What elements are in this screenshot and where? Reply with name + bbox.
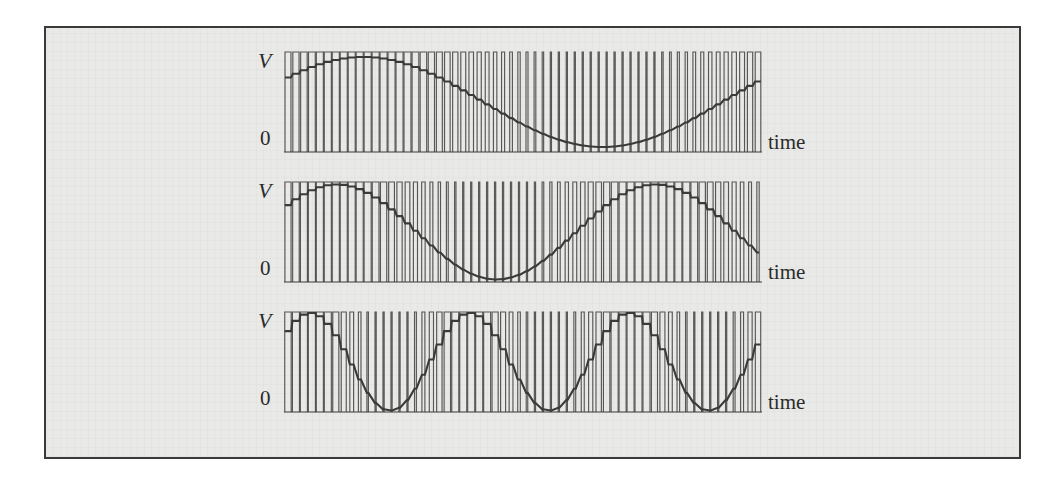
pwm-pulse (574, 52, 575, 152)
pwm-pulse (316, 312, 323, 412)
pwm-pulse (614, 52, 615, 152)
pwm-pulse (732, 182, 736, 282)
pwm-pulse (356, 52, 363, 152)
pwm-pulse (308, 182, 315, 282)
pwm-pulse (316, 182, 323, 282)
pwm-pulse (755, 312, 760, 412)
pwm-pulse (484, 312, 491, 412)
waveform-panel-3: V 0 time (46, 310, 1023, 430)
pwm-pulse (332, 182, 339, 282)
pwm-pulse (675, 182, 682, 282)
pwm-pulse (453, 52, 458, 152)
pwm-pulse (589, 312, 593, 412)
pwm-pulse (726, 312, 727, 412)
pwm-pulse (651, 312, 657, 412)
pwm-pulse (611, 182, 618, 282)
pwm-pulse (581, 182, 585, 282)
pwm-pulse (391, 312, 392, 412)
pwm-pulse (510, 182, 511, 282)
pwm-pulse (444, 312, 450, 412)
pwm-pulse (372, 52, 379, 152)
pwm-pulse (588, 182, 593, 282)
pwm-pulse (635, 182, 642, 282)
pwm-pulse (662, 52, 663, 152)
pwm-pulse (740, 182, 743, 282)
pwm-pulse (445, 52, 451, 152)
pwm-pulse (285, 52, 291, 152)
pwm-pulse (667, 182, 674, 282)
pwm-pulse (463, 182, 464, 282)
pwm-pulse (340, 182, 347, 282)
axis-label-v: V (258, 50, 271, 72)
pwm-pulse (348, 52, 355, 152)
pwm-pulse (389, 182, 395, 282)
pwm-pulse (405, 182, 410, 282)
pwm-pulse (383, 312, 384, 412)
pwm-pulse (604, 182, 610, 282)
pwm-pulse (643, 182, 650, 282)
pwm-pulse (542, 312, 543, 412)
pwm-pulse (358, 312, 361, 412)
pwm-pulse (582, 52, 583, 152)
figure-frame: V 0 time V 0 time V 0 time (44, 26, 1021, 459)
pwm-pulse (707, 182, 713, 282)
pwm-pulse (749, 182, 752, 282)
pwm-pulse (461, 52, 466, 152)
pwm-pulse (316, 52, 323, 152)
pwm-pulse (542, 182, 544, 282)
pwm-pulse (550, 312, 551, 412)
pwm-pulse (324, 52, 331, 152)
pwm-pulse (699, 182, 705, 282)
pwm-pulse (518, 182, 519, 282)
pwm-pulse (630, 52, 631, 152)
pwm-pulse (732, 52, 737, 152)
pwm-pulse (660, 312, 665, 412)
pwm-pulse (364, 52, 371, 152)
pwm-pulse (635, 312, 642, 412)
pwm-pulse (332, 52, 339, 152)
pwm-pulse (301, 52, 308, 152)
pwm-pulse (341, 312, 346, 412)
pwm-pulse (566, 312, 567, 412)
pwm-pulse (350, 312, 354, 412)
pwm-pulse (685, 52, 687, 152)
pwm-pulse (518, 312, 521, 412)
pwm-waveform-plot-2 (284, 180, 762, 284)
pwm-pulse (495, 182, 496, 282)
pwm-pulse (493, 52, 496, 152)
pwm-pulse (683, 182, 690, 282)
pwm-pulse (437, 312, 442, 412)
pwm-pulse (724, 52, 728, 152)
pwm-pulse (651, 182, 658, 282)
pwm-pulse (510, 52, 513, 152)
pwm-pulse (611, 312, 618, 412)
pwm-pulse (404, 52, 411, 152)
pwm-pulse (399, 312, 400, 412)
pwm-pulse (356, 182, 363, 282)
waveform-panel-1: V 0 time (46, 50, 1023, 170)
pwm-pulse (716, 182, 721, 282)
pwm-pulse (429, 312, 433, 412)
axis-label-time: time (768, 392, 805, 413)
pwm-pulse (581, 312, 584, 412)
axis-label-v: V (258, 180, 271, 202)
pwm-pulse (415, 312, 417, 412)
pwm-pulse (324, 182, 331, 282)
pwm-pulse (300, 182, 307, 282)
pwm-pulse (468, 312, 475, 412)
pwm-pulse (293, 52, 299, 152)
pwm-pulse (643, 312, 650, 412)
pwm-pulse (485, 52, 489, 152)
pwm-pulse (476, 312, 483, 412)
pwm-pulse (446, 182, 448, 282)
pwm-pulse (740, 52, 745, 152)
pwm-pulse (619, 182, 626, 282)
axis-label-time: time (768, 262, 805, 283)
pwm-pulse (518, 52, 520, 152)
pwm-pulse (596, 182, 602, 282)
pwm-pulse (701, 52, 704, 152)
pwm-pulse (469, 52, 474, 152)
pwm-waveform-plot-3 (284, 310, 762, 414)
pwm-pulse (694, 312, 695, 412)
pwm-pulse (718, 312, 719, 412)
